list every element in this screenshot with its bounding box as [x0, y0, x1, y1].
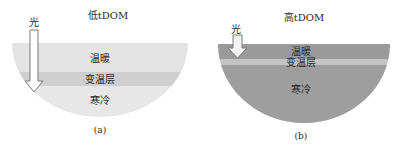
panel-caption: (b) [295, 130, 308, 142]
panel-caption: (a) [94, 124, 106, 136]
panel-title: 低tDOM [88, 10, 128, 22]
cold-layer-label: 寒冷 [291, 84, 311, 96]
panel-title: 高tDOM [284, 12, 324, 24]
warm-layer-label: 温暖 [90, 53, 110, 65]
light-label: 光 [29, 17, 39, 29]
panel-low-tdom: 低tDOM 光 温暖 变温层 寒冷 (a) [0, 0, 199, 148]
thermocline-layer-label: 变温层 [286, 57, 316, 69]
thermocline-layer-label: 变温层 [85, 74, 115, 86]
panel-high-tdom: 高tDOM 光 温暖 变温层 寒冷 (b) [199, 0, 398, 148]
cold-layer-label: 寒冷 [90, 95, 110, 107]
light-label: 光 [231, 24, 241, 36]
